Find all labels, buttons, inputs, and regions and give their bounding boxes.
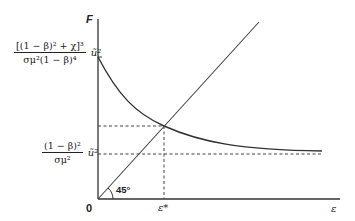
upper-label-numerator: [(1 − β)² + χ]³ bbox=[14, 40, 86, 53]
lower-label-denominator: σμ² bbox=[54, 153, 70, 165]
y-axis-label: F bbox=[86, 14, 93, 25]
angle-arc bbox=[108, 188, 113, 199]
forty-five-degree-line bbox=[98, 22, 259, 199]
lower-tick-label: (1 − β)² σμ² ũ² bbox=[42, 140, 98, 165]
upper-label-denominator: σμ²(1 − β)⁴ bbox=[23, 53, 76, 65]
origin-label: 0 bbox=[86, 203, 92, 214]
upper-label-factor: ũ² bbox=[91, 47, 101, 58]
angle-label: 45° bbox=[116, 185, 130, 195]
x-axis-label: ε bbox=[331, 204, 336, 214]
lower-label-numerator: (1 − β)² bbox=[42, 140, 83, 153]
diagram-canvas bbox=[0, 0, 355, 221]
f-curve bbox=[98, 57, 322, 151]
upper-tick-label: [(1 − β)² + χ]³ σμ²(1 − β)⁴ ũ² bbox=[14, 40, 101, 65]
lower-label-factor: ũ² bbox=[88, 147, 98, 158]
epsilon-star-label: ε* bbox=[158, 203, 168, 213]
